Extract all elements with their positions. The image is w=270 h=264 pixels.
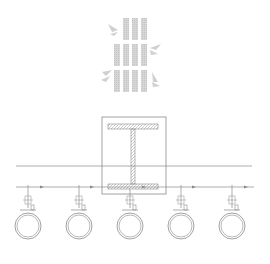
pipe-hanger-2 [66, 185, 92, 239]
pipe-hanger-1 [15, 185, 41, 239]
i-beam-section [108, 124, 158, 189]
pipe-hanger-3 [117, 189, 143, 239]
bamboo-logo [101, 18, 161, 92]
pipe-hanger-5 [219, 185, 245, 239]
pipe-hanger-4 [168, 185, 194, 239]
drawing-canvas [0, 0, 270, 264]
